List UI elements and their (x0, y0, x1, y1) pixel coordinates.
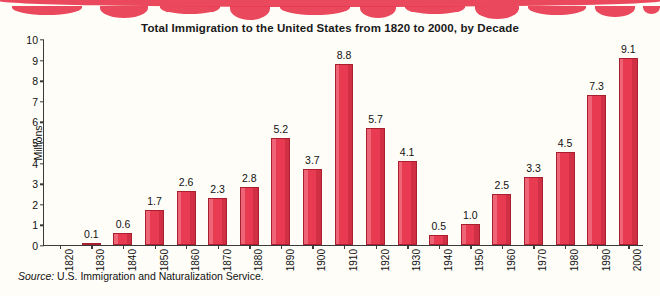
bar-shading (601, 96, 605, 244)
bar-highlight (272, 139, 276, 244)
x-axis-tick-label: 2000 (632, 249, 643, 271)
x-axis-tick-label: 1990 (601, 249, 612, 271)
y-axis-tick-mark (40, 80, 44, 81)
bar-value-label: 0.6 (116, 218, 131, 230)
bar-highlight (241, 188, 245, 244)
bar-shading (127, 234, 131, 244)
bar-slot: 1.0 (461, 40, 480, 245)
bar-highlight (336, 65, 340, 244)
chart-plot-area: 0.10.61.72.62.32.85.23.78.85.74.10.51.02… (44, 40, 643, 245)
bar-highlight (620, 59, 624, 244)
bar-slot: 0.1 (82, 40, 101, 245)
bar (461, 224, 480, 245)
bar-slot: 3.3 (524, 40, 543, 245)
x-axis-tick-label: 1900 (316, 249, 327, 271)
x-axis-tick-mark (597, 245, 598, 249)
bar (619, 58, 638, 245)
bar-value-label: 3.7 (305, 154, 320, 166)
y-axis-tick-mark (40, 101, 44, 102)
bar-highlight (462, 225, 466, 244)
y-axis-tick-mark (40, 122, 44, 123)
bar-value-label: 5.7 (368, 113, 383, 125)
x-axis-tick-mark (312, 245, 313, 249)
bar-slot: 2.3 (208, 40, 227, 245)
bar-shading (285, 139, 289, 244)
bar-shading (253, 188, 257, 244)
chart-plot-frame: Millions 0.10.61.72.62.32.85.23.78.85.74… (43, 40, 643, 246)
bar-shading (506, 195, 510, 245)
x-axis-tick-label: 1820 (64, 249, 75, 271)
bar-value-label: 2.3 (210, 183, 225, 195)
bar-slot: 2.8 (240, 40, 259, 245)
bar (303, 169, 322, 245)
y-axis-tick-mark (40, 142, 44, 143)
x-axis-tick-mark (439, 245, 440, 249)
bar-value-label: 8.8 (337, 49, 352, 61)
x-axis-tick-label: 1860 (190, 249, 201, 271)
x-axis-tick-mark (376, 245, 377, 249)
bar-slot: 5.2 (271, 40, 290, 245)
x-axis-tick-mark (470, 245, 471, 249)
x-axis-tick-mark (565, 245, 566, 249)
bar-value-label: 0.1 (84, 228, 99, 240)
bar (240, 187, 259, 245)
y-axis-tick-mark (40, 225, 44, 226)
bar-shading (443, 236, 447, 244)
bar-slot: 7.3 (587, 40, 606, 245)
x-axis-tick-label: 1890 (285, 249, 296, 271)
bar-shading (632, 59, 636, 244)
x-axis-tick-label: 1940 (443, 249, 454, 271)
bar (145, 210, 164, 245)
x-axis-tick-mark (344, 245, 345, 249)
bar (587, 95, 606, 245)
bar-value-label: 2.6 (179, 176, 194, 188)
x-axis-tick-mark (502, 245, 503, 249)
bar (335, 64, 354, 245)
x-axis-tick-mark (407, 245, 408, 249)
bar-shading (538, 178, 542, 244)
y-axis-tick-mark (40, 183, 44, 184)
bar (556, 152, 575, 245)
x-axis-tick-mark (249, 245, 250, 249)
bar-slot: 2.6 (177, 40, 196, 245)
source-text: U.S. Immigration and Naturalization Serv… (57, 270, 264, 282)
bar-highlight (557, 153, 561, 244)
bar-highlight (399, 162, 403, 244)
bar-value-label: 3.3 (526, 162, 541, 174)
x-axis-tick-label: 1840 (127, 249, 138, 271)
bar-slot: 0.5 (429, 40, 448, 245)
bar (177, 191, 196, 245)
bar (366, 128, 385, 245)
bar-slot: 2.5 (492, 40, 511, 245)
bar-value-label: 2.5 (495, 179, 510, 191)
bar (208, 198, 227, 245)
bar-value-label: 5.2 (274, 123, 289, 135)
x-axis-tick-mark (281, 245, 282, 249)
bar-highlight (367, 129, 371, 244)
x-axis-tick-mark (186, 245, 187, 249)
bar-shading (190, 192, 194, 244)
bar-shading (474, 225, 478, 244)
bar-value-label: 4.1 (400, 146, 415, 158)
bar-highlight (493, 195, 497, 245)
y-axis-tick-mark (40, 60, 44, 61)
bar-slot: 5.7 (366, 40, 385, 245)
x-axis-tick-label: 1830 (95, 249, 106, 271)
bar (429, 235, 448, 245)
decorative-page-edge (0, 0, 660, 22)
x-axis-tick-label: 1980 (569, 249, 580, 271)
x-axis-tick-mark (218, 245, 219, 249)
x-axis-tick-label: 1930 (411, 249, 422, 271)
chart-source-note: Source: U.S. Immigration and Naturalizat… (18, 270, 264, 282)
bar (492, 194, 511, 246)
chart-title: Total Immigration to the United States f… (0, 22, 660, 34)
bar-highlight (178, 192, 182, 244)
bar-highlight (146, 211, 150, 244)
bar-slot: 1.7 (145, 40, 164, 245)
bar-highlight (209, 199, 213, 244)
bar-shading (348, 65, 352, 244)
bar-slot: 0.6 (113, 40, 132, 245)
bar-highlight (304, 170, 308, 244)
x-axis-tick-label: 1970 (537, 249, 548, 271)
x-axis-tick-label: 1880 (253, 249, 264, 271)
